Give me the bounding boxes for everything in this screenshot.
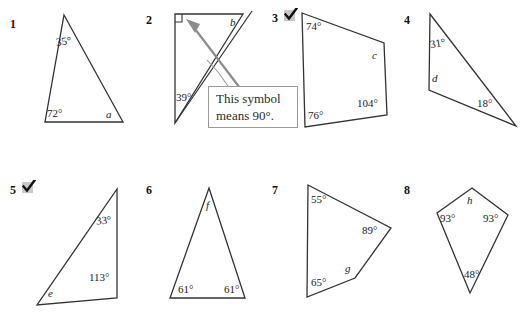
angle-label-h: h xyxy=(467,195,473,206)
figure-8-kite xyxy=(0,0,528,312)
worksheet-page: 1 35° 72° a 2 b 39° This symbol xyxy=(0,0,528,312)
angle-label-93-right: 93° xyxy=(483,213,498,224)
angle-label-93-left: 93° xyxy=(440,213,455,224)
angle-label-48: 48° xyxy=(464,269,479,280)
